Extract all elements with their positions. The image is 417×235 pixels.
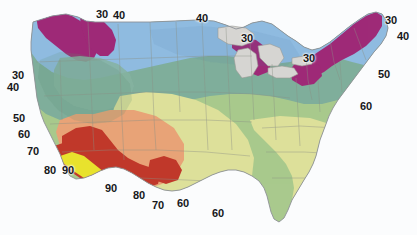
contour-label: 60 bbox=[360, 101, 372, 112]
contour-label: 40 bbox=[113, 10, 125, 21]
contour-label: 40 bbox=[196, 13, 208, 24]
contour-label: 60 bbox=[177, 198, 189, 209]
contour-label: 70 bbox=[27, 146, 39, 157]
contour-label: 30 bbox=[241, 33, 253, 44]
contour-label: 80 bbox=[133, 190, 145, 201]
contour-label: 40 bbox=[397, 31, 409, 42]
map-canvas bbox=[0, 0, 417, 235]
contour-bands bbox=[0, 0, 417, 235]
contour-label: 60 bbox=[18, 129, 30, 140]
contour-map: 3040403030304050603040506070809090807060… bbox=[0, 0, 417, 235]
contour-label: 60 bbox=[212, 208, 224, 219]
contour-label: 90 bbox=[62, 165, 74, 176]
contour-label: 90 bbox=[105, 183, 117, 194]
contour-label: 30 bbox=[303, 53, 315, 64]
contour-label: 40 bbox=[7, 82, 19, 93]
contour-label: 70 bbox=[152, 200, 164, 211]
contour-label: 30 bbox=[96, 9, 108, 20]
contour-label: 50 bbox=[378, 69, 390, 80]
contour-label: 50 bbox=[13, 113, 25, 124]
contour-label: 30 bbox=[385, 15, 397, 26]
contour-label: 30 bbox=[12, 70, 24, 81]
contour-label: 80 bbox=[44, 165, 56, 176]
